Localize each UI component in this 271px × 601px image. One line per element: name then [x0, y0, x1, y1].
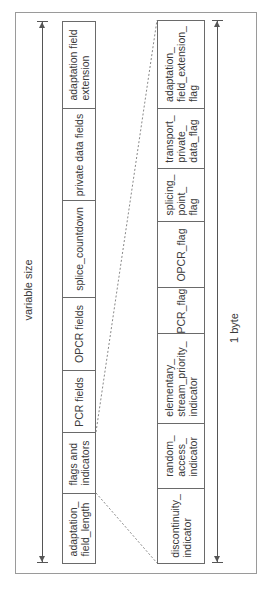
- expansion-dashed-lines: [0, 0, 271, 601]
